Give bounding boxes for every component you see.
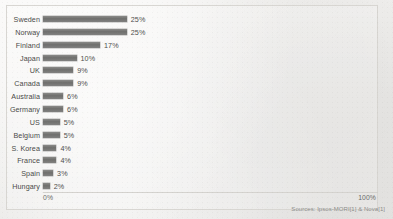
bar-fill [43,119,60,125]
bar-category-label: Spain [0,167,40,180]
bar-track: 9% [43,64,393,77]
bar-value-label: 25% [131,26,146,39]
bar-row: Australia6% [0,90,393,103]
bar-category-label: Canada [0,77,40,90]
bar-value-label: 3% [57,167,68,180]
bar-category-label: Belgium [0,129,40,142]
bar-row: Germany6% [0,103,393,116]
bar-category-label: Hungary [0,180,40,193]
bar-value-label: 5% [64,116,75,129]
bar-chart: Sweden25%Norway25%Finland17%Japan10%UK9%… [0,0,393,219]
bar-category-label: S. Korea [0,142,40,155]
bar-fill [43,106,63,112]
bar-row: Sweden25% [0,13,393,26]
bar-value-label: 4% [60,154,71,167]
bar-category-label: Japan [0,52,40,65]
bar-fill [43,170,53,176]
bar-fill [43,80,73,86]
bar-value-label: 6% [67,90,78,103]
source-note: Sources: Ipsos-MORI[1] & Nova[1] [291,205,385,214]
bar-track: 25% [43,13,393,26]
bar-fill [43,67,73,73]
bar-value-label: 25% [131,13,146,26]
bar-value-label: 17% [104,39,119,52]
bar-row: US5% [0,116,393,129]
bar-fill [43,42,100,48]
bar-category-label: Norway [0,26,40,39]
bar-track: 3% [43,167,393,180]
bar-track: 10% [43,52,393,65]
bar-fill [43,132,60,138]
bar-fill [43,55,77,61]
bar-fill [43,157,56,163]
bar-track: 5% [43,129,393,142]
bar-track: 25% [43,26,393,39]
x-axis-max-tick-label: 100% [358,193,376,203]
bar-category-label: France [0,154,40,167]
x-axis-line [43,192,378,193]
bar-fill [43,183,50,189]
bar-track: 4% [43,142,393,155]
bar-fill [43,145,56,151]
bar-track: 9% [43,77,393,90]
bar-value-label: 6% [67,103,78,116]
x-axis-min-tick-label: 0% [43,193,53,203]
bar-fill [43,16,127,22]
bar-value-label: 5% [64,129,75,142]
bar-fill [43,29,127,35]
bar-row: Canada9% [0,77,393,90]
bar-value-label: 9% [77,77,88,90]
bar-category-label: Sweden [0,13,40,26]
bar-track: 5% [43,116,393,129]
bar-category-label: Finland [0,39,40,52]
bar-row: Spain3% [0,167,393,180]
bar-category-label: Australia [0,90,40,103]
bar-category-label: UK [0,64,40,77]
bar-row: Norway25% [0,26,393,39]
bar-value-label: 9% [77,64,88,77]
bar-row: Belgium5% [0,129,393,142]
bar-category-label: US [0,116,40,129]
bar-track: 4% [43,154,393,167]
bar-value-label: 10% [81,52,96,65]
bar-track: 6% [43,90,393,103]
bar-row: UK9% [0,64,393,77]
bar-fill [43,93,63,99]
bar-row: France4% [0,154,393,167]
bar-track: 17% [43,39,393,52]
bar-row: S. Korea4% [0,142,393,155]
bar-track: 6% [43,103,393,116]
bar-category-label: Germany [0,103,40,116]
bar-row: Finland17% [0,39,393,52]
bar-value-label: 4% [60,142,71,155]
bar-row: Japan10% [0,52,393,65]
